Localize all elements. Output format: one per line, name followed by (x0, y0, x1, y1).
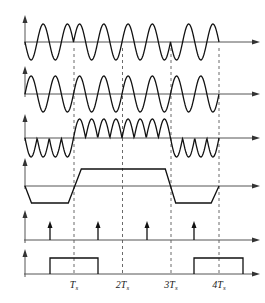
t-axis-arrow-icon (252, 92, 260, 97)
tick-label-2Ts: 2Ts (116, 279, 130, 292)
pulse-arrow-icon (96, 221, 101, 228)
y-axis-arrow-icon (23, 249, 28, 257)
pulse-arrow-icon (48, 221, 53, 228)
t-axis-arrow-icon (252, 238, 260, 243)
output-pulse-2 (194, 258, 243, 274)
pulse-arrow-icon (145, 221, 150, 228)
bpsk-demodulation-timing-diagram: Ts2Ts3Ts4Ts (0, 0, 265, 303)
t-axis-arrow-icon (252, 40, 260, 45)
labels: Ts2Ts3Ts4Ts (70, 279, 226, 292)
t-axis-arrow-icon (252, 272, 260, 277)
y-axis-arrow-icon (23, 66, 28, 74)
t-axis-arrow-icon (252, 184, 260, 189)
tick-label-4Ts: 4Ts (212, 279, 226, 292)
t-axis-arrow-icon (252, 136, 260, 141)
y-axis-arrow-icon (23, 158, 28, 166)
pulse-arrow-icon (192, 221, 197, 228)
diagram-canvas: Ts2Ts3Ts4Ts (0, 0, 265, 303)
y-axis-arrow-icon (23, 114, 28, 122)
y-axis-arrow-icon (23, 210, 28, 218)
tick-label-1Ts: Ts (70, 279, 79, 292)
y-axis-arrow-icon (23, 15, 28, 23)
waveforms (25, 24, 243, 274)
tick-label-3Ts: 3Ts (163, 279, 178, 292)
